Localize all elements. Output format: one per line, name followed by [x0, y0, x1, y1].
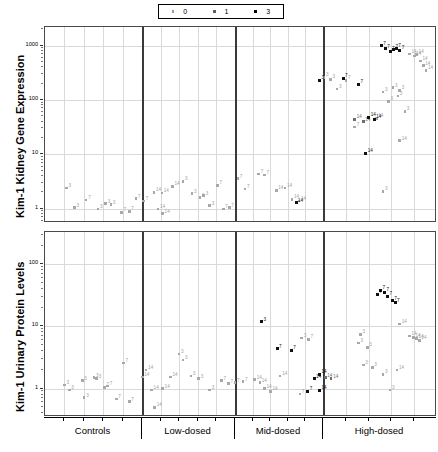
y-minor-tick-mark [41, 66, 43, 67]
y-minor-tick-mark [41, 83, 43, 84]
data-point [110, 203, 113, 206]
data-point [336, 88, 339, 91]
y-minor-tick-mark [41, 406, 43, 407]
data-point-label: 3 [392, 386, 395, 391]
y-minor-tick-mark [41, 121, 43, 122]
vertical-gridline [253, 232, 254, 415]
legend-marker-square-icon [213, 10, 216, 13]
data-point-label: 7 [267, 171, 270, 176]
data-point-label: 7 [138, 195, 141, 200]
legend-entry-3: 3 [254, 8, 270, 15]
data-point-label: 3 [304, 334, 307, 339]
data-point [73, 206, 76, 209]
data-point-label: 3 [206, 192, 209, 197]
data-point-label: 14 [402, 137, 407, 142]
data-point-label: 14 [368, 149, 373, 154]
x-tick-mark [345, 417, 346, 421]
data-point [253, 378, 256, 381]
data-point [408, 53, 411, 56]
data-point-label: 14 [421, 336, 426, 341]
legend: 0 1 3 [158, 4, 284, 19]
x-tick-mark [287, 417, 288, 421]
data-point [329, 78, 332, 81]
y-minor-tick-mark [41, 213, 43, 214]
data-point-label: 3 [113, 201, 116, 206]
data-point [425, 69, 428, 72]
y-minor-tick-mark [41, 156, 43, 157]
data-point [153, 406, 156, 409]
data-point-label: 14 [333, 375, 338, 380]
data-point-label: 7 [302, 390, 305, 395]
data-point-label: 7 [223, 377, 226, 382]
data-point-label: 3 [185, 356, 188, 361]
data-point-label: 3 [201, 375, 204, 380]
data-point [171, 185, 174, 188]
y-minor-tick-mark [41, 245, 43, 246]
data-point-label: 7 [293, 346, 296, 351]
data-point-label: 14 [357, 115, 362, 120]
y-minor-tick-mark [41, 175, 43, 176]
data-point [362, 364, 365, 367]
data-point [145, 369, 148, 372]
data-point [353, 118, 356, 121]
data-point-label: 7 [131, 207, 134, 212]
vertical-gridline [179, 27, 180, 221]
data-point [371, 366, 374, 369]
data-point-label: 7 [123, 208, 126, 213]
data-point [275, 189, 278, 192]
data-point-label: 7 [219, 181, 222, 186]
data-point [128, 400, 131, 403]
vertical-gridline [179, 232, 180, 415]
vertical-gridline [216, 232, 217, 415]
data-point [122, 362, 125, 365]
y-minor-tick-mark [41, 73, 43, 74]
data-point-label: 3 [69, 184, 72, 189]
data-point-label: 3 [99, 375, 102, 380]
vertical-gridline [288, 232, 289, 415]
data-point-label: 7 [390, 292, 393, 297]
data-point [120, 211, 123, 214]
x-tick-mark [122, 417, 123, 421]
data-point-label: 14 [428, 66, 433, 71]
data-point-label: 7 [310, 335, 313, 340]
data-point [419, 60, 422, 63]
y-tick-mark [40, 99, 43, 100]
data-point [142, 200, 145, 203]
data-point-label: 3 [361, 339, 364, 344]
vertical-gridline [391, 27, 392, 221]
data-point-label: 3 [194, 190, 197, 195]
top-panel-points-layer: 3733337777141414141433333777777714141414… [45, 27, 435, 221]
y-minor-tick-mark [41, 307, 43, 308]
data-point [202, 194, 205, 197]
data-point [157, 208, 160, 211]
vertical-gridline [123, 232, 124, 415]
data-point [216, 184, 219, 187]
y-minor-tick-mark [41, 61, 43, 62]
data-point [299, 393, 302, 396]
y-minor-tick-mark [41, 350, 43, 351]
data-point [85, 199, 88, 202]
data-point-label: 14 [144, 373, 149, 378]
data-point [169, 376, 172, 379]
data-point-label: 7 [279, 345, 282, 350]
data-point [398, 89, 401, 92]
y-minor-tick-mark [41, 401, 43, 402]
data-point [68, 389, 71, 392]
data-point-label: 7 [247, 185, 250, 190]
data-point [398, 323, 401, 326]
vertical-gridline [84, 232, 85, 415]
data-point-label: 14 [316, 375, 321, 380]
data-point [382, 91, 385, 94]
data-point-label: 14 [399, 366, 404, 371]
data-point [220, 379, 223, 382]
data-point-label: 14 [172, 373, 177, 378]
data-point-label: 7 [402, 46, 405, 51]
legend-marker-square-icon [172, 10, 175, 13]
data-point-label: 14 [272, 387, 277, 392]
y-tick-label: 1000 [16, 42, 38, 48]
data-point [366, 346, 369, 349]
data-point-label: 14 [174, 182, 179, 187]
y-minor-tick-mark [41, 159, 43, 160]
data-point [324, 376, 327, 379]
y-minor-tick-mark [41, 412, 43, 413]
